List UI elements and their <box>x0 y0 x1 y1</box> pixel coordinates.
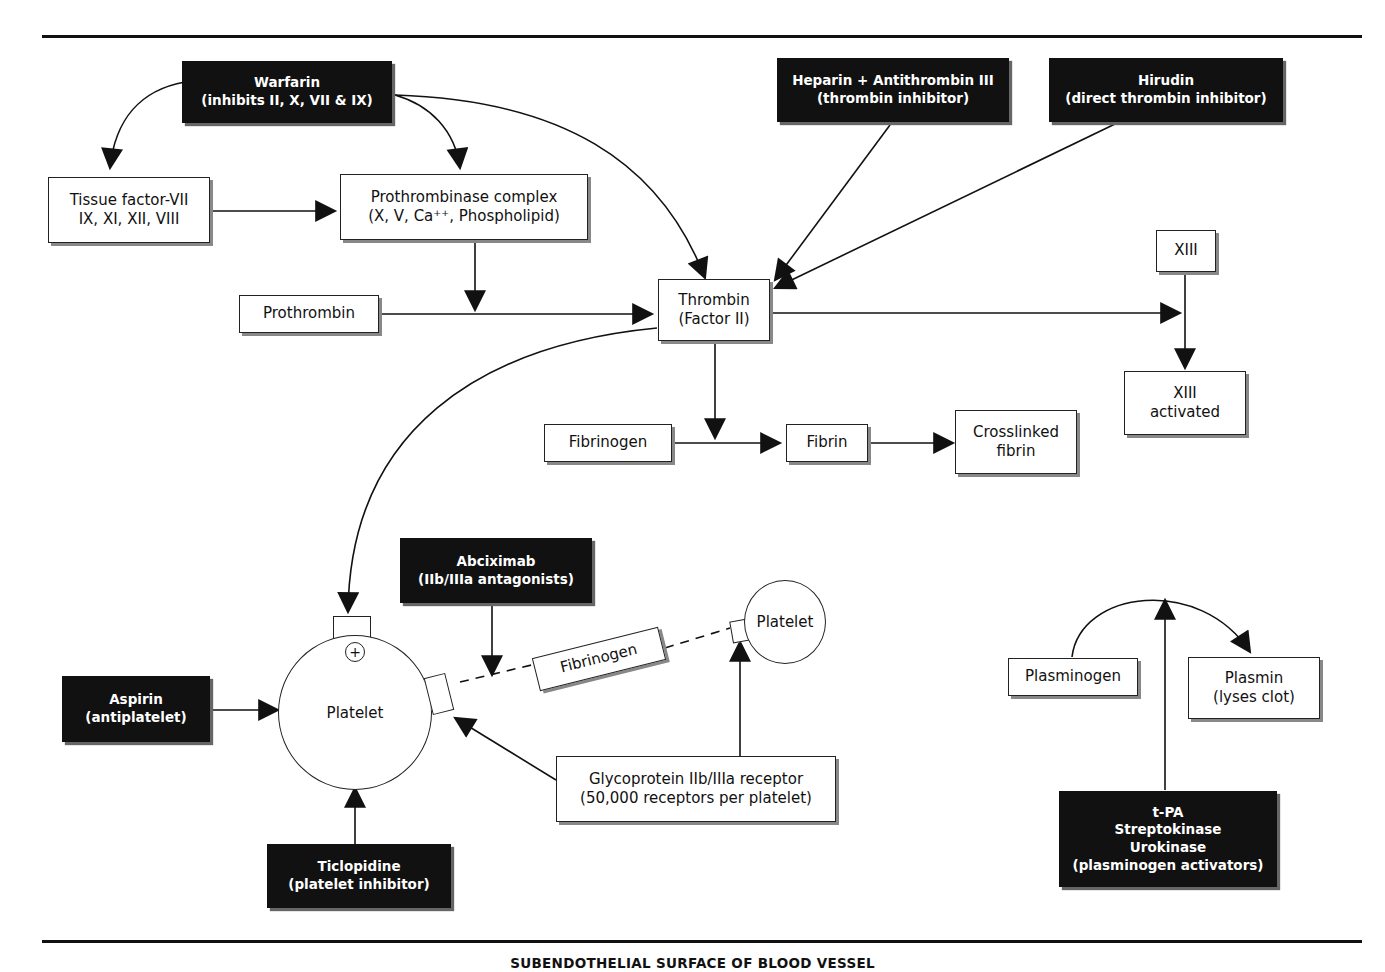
platelet-secondary: Platelet <box>744 580 826 664</box>
node-xiii-activated-line2: activated <box>1150 403 1220 423</box>
arrow-warfarin-prothrombinase <box>395 95 460 168</box>
node-fibrinogen: Fibrinogen <box>544 424 672 462</box>
node-xiii-label: XIII <box>1174 241 1198 261</box>
node-plasmin: Plasmin (lyses clot) <box>1188 657 1320 719</box>
dashed-bridge-left <box>460 663 540 682</box>
arrow-heparin-thrombin <box>775 125 890 280</box>
node-prothrombinase-complex: Prothrombinase complex (X, V, Ca⁺⁺, Phos… <box>340 174 588 240</box>
node-prothrombinase-line1: Prothrombinase complex <box>371 188 558 208</box>
node-xiii: XIII <box>1156 230 1216 272</box>
drug-warfarin-name: Warfarin <box>254 74 320 92</box>
drug-warfarin-desc: (inhibits II, X, VII & IX) <box>201 92 373 110</box>
drug-warfarin: Warfarin (inhibits II, X, VII & IX) <box>182 61 392 123</box>
node-crosslinked-line2: fibrin <box>997 442 1036 462</box>
node-thrombin: Thrombin (Factor II) <box>658 279 770 341</box>
node-tissue-factor: Tissue factor-VII IX, XI, XII, VIII <box>48 177 210 243</box>
drug-aspirin-name: Aspirin <box>109 691 163 709</box>
drug-plasminogen-activators: t-PA Streptokinase Urokinase (plasminoge… <box>1059 791 1277 887</box>
arrow-gp-platelet <box>455 718 556 780</box>
arrow-plasminogen-plasmin <box>1072 600 1250 657</box>
plus-icon: + <box>345 642 365 662</box>
drug-streptokinase: Streptokinase <box>1115 821 1222 839</box>
arrow-hirudin-thrombin <box>775 124 1115 288</box>
drug-abciximab-desc: (IIb/IIIa antagonists) <box>418 571 574 589</box>
drug-ticlopidine: Ticlopidine (platelet inhibitor) <box>267 844 451 908</box>
node-crosslinked-line1: Crosslinked <box>973 423 1059 443</box>
drug-abciximab-name: Abciximab <box>457 553 536 571</box>
node-thrombin-line1: Thrombin <box>678 291 750 311</box>
node-prothrombin: Prothrombin <box>239 295 379 333</box>
drug-abciximab: Abciximab (IIb/IIIa antagonists) <box>400 538 592 603</box>
node-plasminogen-label: Plasminogen <box>1025 667 1121 687</box>
drug-tpa: t-PA <box>1152 804 1183 822</box>
node-fibrin: Fibrin <box>786 424 868 462</box>
drug-aspirin: Aspirin (antiplatelet) <box>62 676 210 742</box>
node-tissue-factor-line1: Tissue factor-VII <box>70 191 189 211</box>
node-xiii-activated-line1: XIII <box>1173 384 1197 404</box>
platelet-secondary-label: Platelet <box>757 613 814 631</box>
node-plasmin-line1: Plasmin <box>1225 669 1284 689</box>
node-thrombin-line2: (Factor II) <box>678 310 749 330</box>
platelet-main-label: Platelet <box>327 704 384 722</box>
node-xiii-activated: XIII activated <box>1124 371 1246 435</box>
drug-aspirin-desc: (antiplatelet) <box>85 709 186 727</box>
node-crosslinked-fibrin: Crosslinked fibrin <box>955 410 1077 474</box>
drug-hirudin-name: Hirudin <box>1138 72 1194 90</box>
node-gp-receptor: Glycoprotein IIb/IIIa receptor (50,000 r… <box>556 756 836 822</box>
dashed-bridge-right <box>665 628 730 648</box>
drug-urokinase: Urokinase <box>1130 839 1206 857</box>
drug-heparin-desc: (thrombin inhibitor) <box>817 90 969 108</box>
drug-ticlopidine-desc: (platelet inhibitor) <box>288 876 429 894</box>
drug-heparin: Heparin + Antithrombin III (thrombin inh… <box>777 58 1009 122</box>
drug-activators-desc: (plasminogen activators) <box>1072 857 1263 875</box>
node-fibrin-label: Fibrin <box>806 433 847 453</box>
node-plasminogen: Plasminogen <box>1008 658 1138 696</box>
drug-heparin-name: Heparin + Antithrombin III <box>792 72 994 90</box>
node-gp-receptor-line1: Glycoprotein IIb/IIIa receptor <box>589 770 803 790</box>
node-fibrinogen-label: Fibrinogen <box>569 433 648 453</box>
node-tissue-factor-line2: IX, XI, XII, VIII <box>79 210 180 230</box>
node-prothrombinase-line2: (X, V, Ca⁺⁺, Phospholipid) <box>368 207 560 227</box>
drug-ticlopidine-name: Ticlopidine <box>317 858 400 876</box>
node-prothrombin-label: Prothrombin <box>263 304 355 324</box>
arrow-warfarin-tissue-factor <box>110 82 185 168</box>
node-gp-receptor-line2: (50,000 receptors per platelet) <box>580 789 812 809</box>
drug-hirudin-desc: (direct thrombin inhibitor) <box>1065 90 1266 108</box>
drug-hirudin: Hirudin (direct thrombin inhibitor) <box>1049 58 1283 122</box>
footer-label: SUBENDOTHELIAL SURFACE OF BLOOD VESSEL <box>0 955 1385 971</box>
node-plasmin-line2: (lyses clot) <box>1213 688 1295 708</box>
